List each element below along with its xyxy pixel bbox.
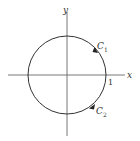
unit-circle-diagram: y x 1 C 1 C 2: [0, 0, 140, 141]
svg-text:2: 2: [103, 111, 107, 118]
svg-text:1: 1: [104, 46, 108, 53]
radius-one-label: 1: [108, 78, 113, 87]
svg-text:C: C: [96, 106, 103, 116]
svg-text:C: C: [97, 41, 104, 51]
c2-label: C 2: [96, 106, 107, 118]
y-axis-label: y: [62, 5, 69, 15]
x-axis-label: x: [127, 70, 132, 80]
c1-label: C 1: [97, 41, 108, 53]
